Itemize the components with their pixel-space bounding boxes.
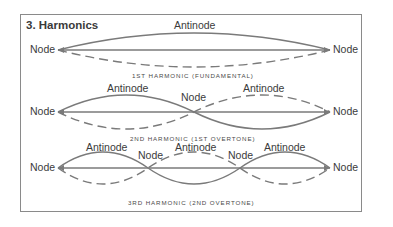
- h1-dashed-wave: [58, 50, 330, 67]
- h2-antinode-left-label: Antinode: [107, 82, 148, 94]
- h2-node-left-label: Node: [30, 105, 55, 117]
- h3-caption: 3RD HARMONIC (2ND OVERTONE): [128, 199, 255, 206]
- h3-node-right-label: Node: [333, 161, 358, 173]
- h1-antinode-label: Antinode: [174, 19, 215, 31]
- h2-node-middle-label: Node: [181, 91, 206, 103]
- h1-caption: 1ST HARMONIC (FUNDAMENTAL): [132, 72, 254, 79]
- h3-antinode-third-label: Antinode: [264, 141, 305, 153]
- h1-node-right-label: Node: [333, 43, 358, 55]
- h3-antinode-first-label: Antinode: [86, 141, 127, 153]
- h3-node-second-label: Node: [138, 149, 163, 161]
- h1-solid-wave: [58, 33, 330, 50]
- h1-node-left-label: Node: [30, 43, 55, 55]
- diagram-title: 3. Harmonics: [26, 19, 98, 31]
- h1-node-marker-right: [324, 47, 330, 53]
- h2-node-right-label: Node: [333, 105, 358, 117]
- h3-antinode-second-label: Antinode: [175, 141, 216, 153]
- h2-antinode-right-label: Antinode: [243, 82, 284, 94]
- h3-node-left-label: Node: [30, 161, 55, 173]
- h1-node-marker-left: [58, 47, 64, 53]
- h3-node-third-label: Node: [228, 149, 253, 161]
